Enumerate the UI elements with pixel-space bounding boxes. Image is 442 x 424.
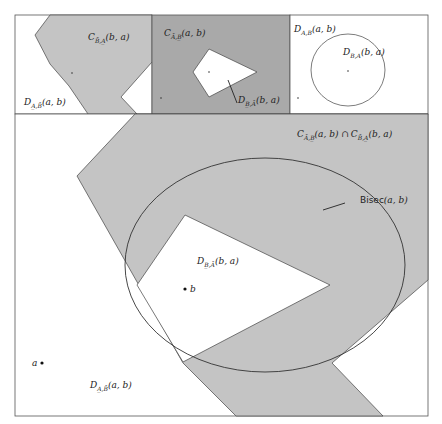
diagram-canvas: CB̄,A̲(b, a) DA̲,B̄(a, b) CĀ,B̲(a, b) DB… <box>0 0 442 424</box>
label-point-b: b <box>190 284 196 294</box>
point-a <box>40 361 43 364</box>
point-b <box>183 287 186 290</box>
point-dot <box>71 72 73 74</box>
panel-main: b a CĀ,B̲(a, b) ∩CB̄,A̲(b, a) Bisec(a, b… <box>15 114 428 416</box>
label-bisector: Bisec(a, b) <box>360 195 408 205</box>
point-dot <box>208 71 210 73</box>
point-dot <box>160 97 162 99</box>
point-dot <box>347 70 349 72</box>
panel-top-right: DA,B(a, b) DB,A(b, a) <box>290 15 428 114</box>
label-point-a: a <box>32 358 37 368</box>
panel-top-middle: CĀ,B̲(a, b) DB̲,Ā(b, a) <box>152 15 290 114</box>
point-dot <box>297 97 299 99</box>
panel-top-left: CB̄,A̲(b, a) DA̲,B̄(a, b) <box>15 15 152 114</box>
